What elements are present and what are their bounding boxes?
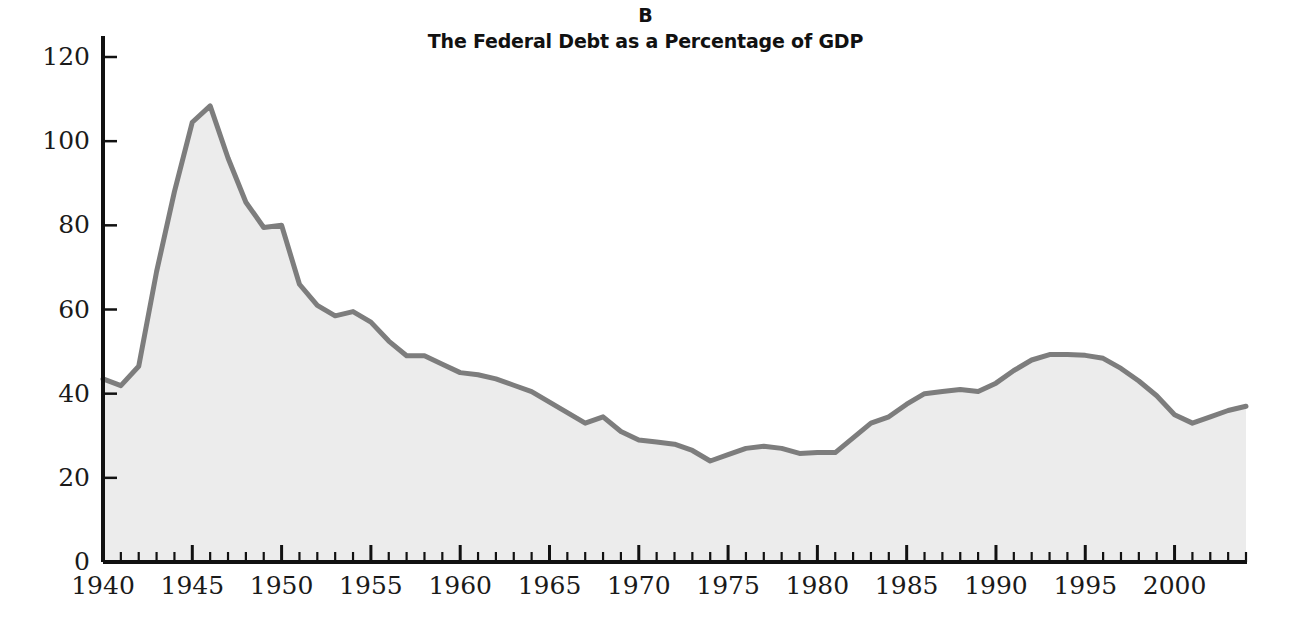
y-tick-label: 20 (28, 465, 90, 490)
x-tick-labels: 1940194519501955196019651970197519801985… (0, 573, 1291, 613)
y-tick-label: 60 (28, 297, 90, 322)
y-tick-label: 100 (28, 128, 90, 153)
chart-title: The Federal Debt as a Percentage of GDP (0, 30, 1291, 52)
area-fill (103, 106, 1246, 562)
panel-letter: B (0, 4, 1291, 26)
y-tick-label: 80 (28, 212, 90, 237)
area-chart-plot (0, 0, 1291, 625)
y-tick-label: 40 (28, 381, 90, 406)
x-tick-label: 2000 (1115, 573, 1235, 598)
y-tick-label: 120 (28, 44, 90, 69)
figure-panel-b: B The Federal Debt as a Percentage of GD… (0, 0, 1291, 625)
